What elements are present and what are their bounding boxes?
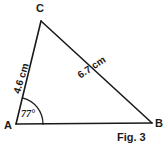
figure-container: A B C 4.6 cm 6.7 cm 77° Fig. 3 <box>0 0 165 148</box>
vertex-label-a: A <box>4 120 12 131</box>
triangle-side-ab <box>16 123 152 124</box>
figure-caption: Fig. 3 <box>117 132 146 143</box>
vertex-label-c: C <box>36 3 44 14</box>
angle-measure-label-a: 77° <box>21 109 35 119</box>
vertex-label-b: B <box>155 118 163 129</box>
triangle-side-cb <box>41 21 152 123</box>
